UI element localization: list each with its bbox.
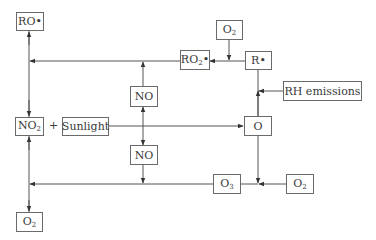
o2-bottom-label: O2 xyxy=(23,216,37,229)
no-lower-node: NO xyxy=(130,145,158,165)
o2-right-node: O2 xyxy=(286,174,314,194)
rh-emissions-node: RH emissions xyxy=(283,81,362,101)
rh-emissions-label: RH emissions xyxy=(285,86,361,97)
o2-bottom-node: O2 xyxy=(16,212,43,232)
no2-label: NO2 xyxy=(18,120,41,133)
r-radical-label: R• xyxy=(251,55,266,66)
o2-right-label: O2 xyxy=(293,178,307,191)
ro2-radical-node: RO2• xyxy=(180,50,210,70)
o3-node: O3 xyxy=(213,174,241,194)
sunlight-node: Sunlight xyxy=(62,117,109,136)
plus-operator: + xyxy=(49,119,58,132)
ro-radical-node: RO• xyxy=(16,12,44,31)
sunlight-label: Sunlight xyxy=(62,121,109,132)
no-lower-label: NO xyxy=(135,150,154,161)
o2-top-label: O2 xyxy=(223,24,237,37)
o2-top-node: O2 xyxy=(216,20,243,40)
no-upper-label: NO xyxy=(135,91,154,102)
o3-label: O3 xyxy=(220,178,234,191)
r-radical-node: R• xyxy=(245,51,272,70)
no-upper-node: NO xyxy=(130,86,158,107)
ro-radical-label: RO• xyxy=(18,16,42,27)
no2-node: NO2 xyxy=(15,117,44,136)
o-atom-node: O xyxy=(244,116,272,136)
ro2-radical-label: RO2• xyxy=(181,54,209,67)
o-atom-label: O xyxy=(253,121,262,132)
